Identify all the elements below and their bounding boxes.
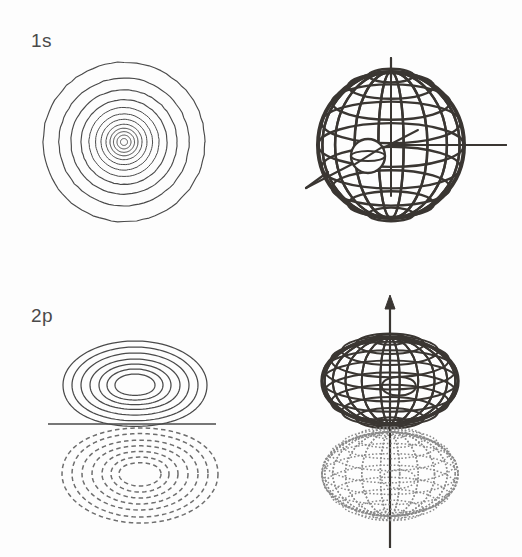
orbital-label-1s: 1s xyxy=(31,30,52,52)
contour-lower-negative xyxy=(62,428,218,523)
contour-upper-positive xyxy=(63,341,207,426)
1s-3d-wireframe-sphere xyxy=(306,58,506,221)
2p-contour-plot xyxy=(48,341,218,523)
contour-ring xyxy=(96,114,153,170)
orbital-diagrams-svg xyxy=(0,0,522,557)
contour-ring xyxy=(71,90,177,195)
contour-ring xyxy=(43,62,205,222)
contour-upper-positive xyxy=(99,364,171,405)
contour-ring xyxy=(89,107,159,176)
z-axis-arrowhead xyxy=(385,295,395,309)
contour-ring xyxy=(101,119,147,164)
contour-ring xyxy=(59,78,190,206)
2p-3d-wireframe-lobes xyxy=(322,295,458,548)
contour-upper-positive xyxy=(115,374,155,395)
contour-lower-negative xyxy=(119,463,161,486)
1s-contour-plot xyxy=(43,62,205,222)
contour-lower-negative xyxy=(102,451,178,498)
contour-ring xyxy=(117,135,131,149)
contour-ring xyxy=(121,139,128,146)
contour-lower-negative xyxy=(82,440,198,510)
contour-ring xyxy=(106,124,142,160)
contour-ring xyxy=(81,100,167,185)
orbital-figure: 1s 2p xyxy=(0,0,522,557)
contour-upper-positive xyxy=(81,353,189,415)
orbital-label-2p: 2p xyxy=(31,305,53,327)
contour-ring xyxy=(110,128,138,156)
contour-upper-positive xyxy=(90,359,180,409)
contour-lower-negative xyxy=(92,446,188,504)
